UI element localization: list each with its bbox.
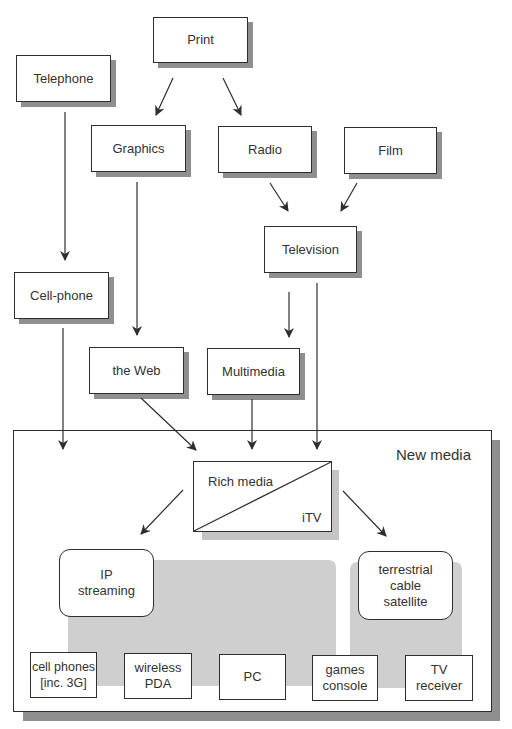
arrow-richmedia-ipstreaming <box>141 490 183 534</box>
arrow-print-graphics <box>156 78 173 115</box>
media-evolution-diagram: New media Print Telephone Graphics Radio… <box>0 0 512 729</box>
arrow-film-television <box>341 183 357 211</box>
arrow-itv-broadcast <box>343 491 386 536</box>
arrow-radio-television <box>270 183 288 211</box>
arrow-web-richmedia <box>141 398 196 450</box>
connector-layer <box>0 0 512 729</box>
arrow-print-radio <box>223 78 241 115</box>
